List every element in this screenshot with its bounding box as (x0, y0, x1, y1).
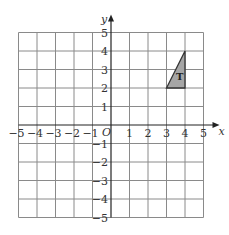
y-tick-label: 1 (101, 101, 108, 114)
x-tick-label: −2 (64, 127, 80, 140)
y-tick-label: 3 (101, 64, 108, 77)
y-tick-label: −5 (92, 212, 108, 225)
x-tick-label: −4 (27, 127, 43, 140)
x-tick-label: −5 (8, 127, 24, 140)
y-tick-label: −3 (92, 175, 108, 188)
axes (19, 15, 220, 218)
y-tick-label: 2 (101, 82, 108, 95)
y-tick-label: 4 (101, 45, 108, 58)
y-axis-arrow-icon (108, 15, 114, 22)
x-tick-label: 4 (182, 127, 189, 140)
x-tick-label: 2 (145, 127, 152, 140)
origin-label: O (102, 126, 111, 139)
y-axis-label: y (100, 13, 108, 26)
tick-labels: −5−4−3−2−11234554321−1−2−3−4−5Oxy (8, 13, 225, 225)
coordinate-grid-diagram: T −5−4−3−2−11234554321−1−2−3−4−5Oxy (0, 0, 229, 235)
y-tick-label: −1 (92, 138, 108, 151)
x-tick-label: 3 (163, 127, 170, 140)
shape-label: T (176, 71, 184, 82)
y-tick-label: 5 (101, 27, 108, 40)
y-tick-label: −4 (92, 193, 108, 206)
x-tick-label: 5 (200, 127, 207, 140)
x-tick-label: −3 (45, 127, 61, 140)
x-axis-label: x (219, 125, 226, 138)
x-tick-label: 1 (126, 127, 133, 140)
y-tick-label: −2 (92, 156, 108, 169)
